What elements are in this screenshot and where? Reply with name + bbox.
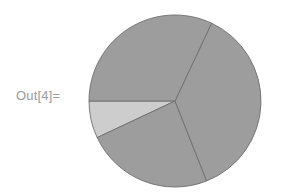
pie-slice-group bbox=[89, 15, 261, 187]
notebook-output-cell: Out[4]= bbox=[0, 0, 284, 196]
pie-chart[interactable] bbox=[0, 0, 284, 196]
pie-chart-svg bbox=[0, 0, 284, 196]
